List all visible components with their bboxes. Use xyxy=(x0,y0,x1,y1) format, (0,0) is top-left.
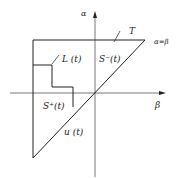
phase-diagram: α β T α=β L (t) S⁻(t) S⁺(t) u (t) xyxy=(0,0,180,178)
beta-axis-arrow-icon xyxy=(159,91,166,95)
alpha-axis-arrow-icon xyxy=(93,11,97,18)
triangle-boundary xyxy=(33,40,145,158)
L-leader xyxy=(52,55,59,64)
alpha-label: α xyxy=(81,9,87,18)
L-label: L (t) xyxy=(61,54,82,64)
S-minus-label: S⁻(t) xyxy=(99,54,121,64)
u-label: u (t) xyxy=(64,127,84,137)
S-plus-label: S⁺(t) xyxy=(43,101,65,111)
diag-label: α=β xyxy=(154,38,169,46)
T-label: T xyxy=(129,26,136,36)
beta-label: β xyxy=(154,100,160,110)
